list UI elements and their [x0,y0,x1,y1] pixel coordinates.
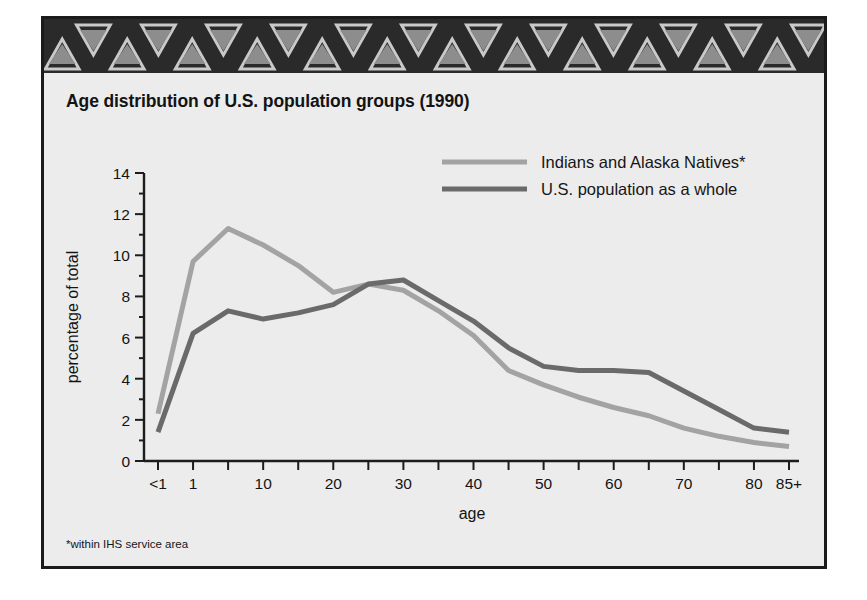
chart-area: Indians and Alaska Natives* U.S. populat… [44,19,824,566]
y-tick-label: 0 [121,453,130,470]
x-tick-label: <1 [149,475,167,492]
legend: Indians and Alaska Natives* U.S. populat… [442,153,746,198]
x-axis-ticks: <11102030405060708085+ [149,461,802,492]
x-tick-label: 85+ [776,475,802,492]
chart-svg: Indians and Alaska Natives* U.S. populat… [44,19,824,566]
series-group [158,229,789,447]
y-tick-label: 12 [113,206,130,223]
x-tick-label: 40 [465,475,483,492]
y-tick-label: 14 [113,165,131,182]
legend-label-indians-alaska-natives: Indians and Alaska Natives* [541,153,746,171]
line-series-indians-alaska-natives [158,229,789,447]
x-tick-label: 60 [605,475,623,492]
axis-lines [144,173,799,461]
line-series-us-population [158,280,789,432]
y-tick-label: 8 [121,288,130,305]
y-tick-label: 2 [121,412,130,429]
x-tick-label: 30 [395,475,413,492]
x-tick-label: 20 [325,475,343,492]
y-tick-label: 10 [113,247,131,264]
y-tick-label: 4 [121,371,130,388]
legend-label-us-population: U.S. population as a whole [541,180,737,198]
footnote: *within IHS service area [66,538,188,550]
x-axis-title: age [459,505,486,522]
figure-panel: Age distribution of U.S. population grou… [41,16,827,569]
y-axis-title: percentage of total [64,251,81,384]
x-tick-label: 70 [675,475,693,492]
x-tick-label: 50 [535,475,553,492]
y-axis-ticks: 02468101214 [113,165,144,470]
x-tick-label: 80 [745,475,763,492]
y-tick-label: 6 [121,330,130,347]
x-tick-label: 10 [255,475,273,492]
x-tick-label: 1 [189,475,198,492]
